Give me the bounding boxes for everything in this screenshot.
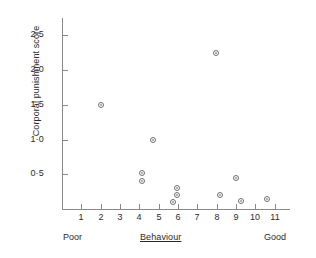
y-axis-tick-label-wrap: 2·5 — [0, 30, 62, 39]
x-axis-tick — [236, 204, 237, 209]
data-point — [139, 170, 145, 176]
x-axis-tick — [255, 204, 256, 209]
y-axis-tick-label-wrap: 1·0 — [0, 135, 62, 144]
y-axis-tick-label: 2·0 — [16, 65, 44, 74]
x-axis-tick — [139, 204, 140, 209]
x-axis-low-anchor-label: Poor — [63, 232, 82, 242]
x-axis-tick-label: 6 — [171, 212, 185, 222]
y-axis-tick-label: 1·5 — [16, 100, 44, 109]
data-point — [174, 185, 180, 191]
data-point — [217, 192, 223, 198]
data-point — [170, 199, 176, 205]
y-axis-tick-label-wrap: 2·0 — [0, 65, 62, 74]
x-axis-tick — [101, 204, 102, 209]
y-axis-line — [62, 18, 63, 210]
x-axis-tick-label: 3 — [113, 212, 127, 222]
data-point — [264, 196, 270, 202]
x-axis-tick-label: 5 — [152, 212, 166, 222]
data-point — [98, 102, 104, 108]
x-axis-tick-label: 10 — [248, 212, 262, 222]
x-axis-tick-label: 4 — [132, 212, 146, 222]
data-point — [238, 198, 244, 204]
y-axis-tick-label-wrap: 1·5 — [0, 100, 62, 109]
x-axis-title: Behaviour — [140, 232, 181, 242]
data-point — [213, 50, 219, 56]
y-axis-tick-label: 0·5 — [16, 169, 44, 178]
x-axis-tick — [217, 204, 218, 209]
x-axis-tick — [178, 204, 179, 209]
x-axis-tick — [275, 204, 276, 209]
x-axis-high-anchor-label: Good — [264, 232, 286, 242]
x-axis-tick-label: 11 — [268, 212, 282, 222]
x-axis-tick — [159, 204, 160, 209]
y-axis-title: Corporal punishment score — [31, 0, 41, 171]
y-axis-tick-label: 2·5 — [16, 30, 44, 39]
data-point — [139, 178, 145, 184]
y-axis-tick-label: 1·0 — [16, 135, 44, 144]
x-axis-tick — [81, 204, 82, 209]
scatter-chart: Corporal punishment score Behaviour Poor… — [0, 0, 316, 258]
y-axis-tick-label-wrap: 0·5 — [0, 169, 62, 178]
x-axis-tick — [120, 204, 121, 209]
x-axis-line — [62, 209, 290, 210]
y-axis-tick — [63, 140, 68, 141]
data-point — [233, 175, 239, 181]
x-axis-tick-label: 1 — [74, 212, 88, 222]
x-axis-tick-label: 9 — [229, 212, 243, 222]
data-point — [174, 192, 180, 198]
x-axis-tick-label: 7 — [190, 212, 204, 222]
y-axis-tick — [63, 174, 68, 175]
y-axis-tick — [63, 70, 68, 71]
y-axis-tick — [63, 35, 68, 36]
x-axis-tick-label: 2 — [94, 212, 108, 222]
data-point — [150, 137, 156, 143]
x-axis-tick-label: 8 — [210, 212, 224, 222]
x-axis-tick — [197, 204, 198, 209]
y-axis-tick — [63, 105, 68, 106]
